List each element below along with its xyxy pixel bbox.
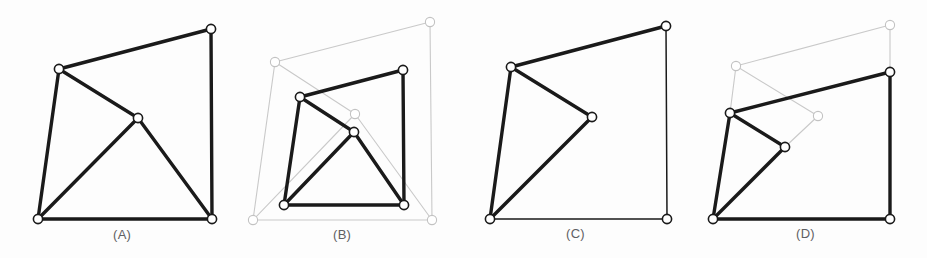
panel-label-d: (D) [796, 226, 815, 241]
mesh-node-b-ghost-top-left [270, 57, 279, 66]
mesh-node-c-bottom-right [662, 214, 671, 223]
mesh-edge-a-3 [38, 69, 59, 219]
mesh-edge-c-5 [490, 117, 592, 219]
mesh-node-d-interior [780, 142, 789, 151]
ghost-node-layer [248, 17, 894, 224]
mesh-node-b-ghost-interior [350, 109, 359, 118]
mesh-edge-b-7 [300, 70, 403, 97]
mesh-node-a-top-left [54, 64, 63, 73]
mesh-edge-d-5 [730, 72, 890, 113]
mesh-edge-b-13 [354, 132, 404, 205]
mesh-edge-b-1 [430, 22, 432, 220]
mesh-node-d-ghost-top-right [885, 20, 894, 29]
mesh-node-b-top-right [398, 65, 407, 74]
mesh-node-b-ghost-bottom-right [427, 215, 436, 224]
mesh-node-a-top-right [206, 24, 215, 33]
mesh-diagram-canvas [0, 0, 927, 258]
mesh-edge-c-4 [511, 67, 592, 117]
mesh-node-a-bottom-left [33, 214, 42, 223]
mesh-node-a-interior [133, 113, 142, 122]
mesh-node-d-bottom-left [708, 214, 717, 223]
mesh-edge-a-1 [211, 29, 212, 219]
mesh-node-c-top-left [506, 62, 515, 71]
mesh-node-b-ghost-top-right [425, 17, 434, 26]
mesh-node-d-top-left [725, 108, 734, 117]
mesh-edge-d-0 [736, 25, 890, 66]
mesh-edge-c-1 [666, 26, 667, 219]
mesh-node-b-ghost-bottom-left [248, 215, 257, 224]
active-node-layer [33, 21, 894, 223]
mesh-edge-d-9 [730, 113, 785, 147]
mesh-node-b-interior [349, 127, 358, 136]
mesh-node-c-top-right [661, 21, 670, 30]
mesh-node-d-bottom-right [885, 214, 894, 223]
active-edge-layer [38, 26, 890, 219]
panel-label-a: (A) [113, 227, 131, 242]
mesh-edge-d-2 [730, 66, 736, 113]
mesh-node-b-bottom-left [279, 200, 288, 209]
mesh-node-c-interior [587, 112, 596, 121]
mesh-node-d-ghost-interior [813, 111, 822, 120]
mesh-edge-a-4 [59, 69, 138, 118]
mesh-node-d-top-right [885, 67, 894, 76]
figure-root: (A) (B) (C) (D) [0, 0, 927, 258]
mesh-edge-a-6 [138, 118, 212, 219]
mesh-node-d-ghost-top-left [731, 61, 740, 70]
mesh-node-b-bottom-right [399, 200, 408, 209]
mesh-node-a-bottom-right [207, 214, 216, 223]
mesh-edge-c-0 [511, 26, 666, 67]
mesh-node-b-top-left [295, 92, 304, 101]
mesh-edge-d-4 [785, 116, 818, 147]
mesh-edge-b-8 [403, 70, 404, 205]
mesh-edge-a-5 [38, 118, 138, 219]
mesh-edge-b-0 [275, 22, 430, 62]
mesh-edge-b-3 [253, 62, 275, 220]
mesh-edge-b-11 [300, 97, 354, 132]
panel-label-c: (C) [566, 226, 585, 241]
mesh-node-c-bottom-left [485, 214, 494, 223]
mesh-edge-c-3 [490, 67, 511, 219]
mesh-edge-a-0 [59, 29, 211, 69]
panel-label-b: (B) [333, 227, 351, 242]
